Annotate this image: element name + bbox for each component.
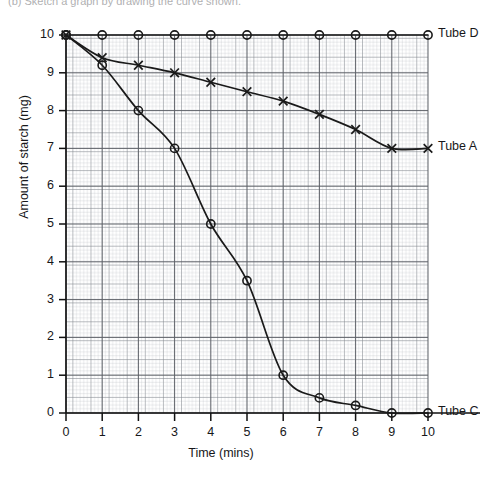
y-tick-label: 2 [30, 329, 54, 343]
x-tick-label: 9 [380, 425, 404, 439]
x-axis-title-text: Time (mins) [188, 446, 254, 460]
x-tick-label: 5 [235, 425, 259, 439]
y-tick-label: 1 [30, 367, 54, 381]
x-tick-label: 2 [126, 425, 150, 439]
x-tick-label: 10 [416, 425, 440, 439]
y-tick-label: 10 [30, 27, 54, 41]
y-tick-label: 5 [30, 216, 54, 230]
x-tick-label: 0 [54, 425, 78, 439]
y-tick-label: 0 [30, 405, 54, 419]
y-tick-label: 7 [30, 140, 54, 154]
y-tick-label: 8 [30, 103, 54, 117]
y-tick-label: 3 [30, 292, 54, 306]
x-axis-title: Time (mins) [0, 446, 500, 460]
plot-area [0, 0, 500, 477]
x-tick-label: 4 [199, 425, 223, 439]
x-tick-label: 7 [307, 425, 331, 439]
series-label-tube-d: Tube D [438, 26, 479, 40]
y-axis-title: Amount of starch (mg) [17, 57, 31, 257]
starch-vs-time-chart: Amount of starch (mg) Time (mins) 109876… [0, 0, 500, 477]
x-tick-label: 1 [90, 425, 114, 439]
y-tick-label: 4 [30, 254, 54, 268]
x-tick-label: 6 [271, 425, 295, 439]
chart-page: (b) Sketch a graph by drawing the curve … [0, 0, 500, 477]
series-label-tube-c: Tube C [438, 404, 479, 418]
series-label-tube-a: Tube A [438, 139, 477, 153]
y-tick-label: 9 [30, 65, 54, 79]
x-tick-label: 3 [163, 425, 187, 439]
x-tick-label: 8 [344, 425, 368, 439]
y-tick-label: 6 [30, 178, 54, 192]
